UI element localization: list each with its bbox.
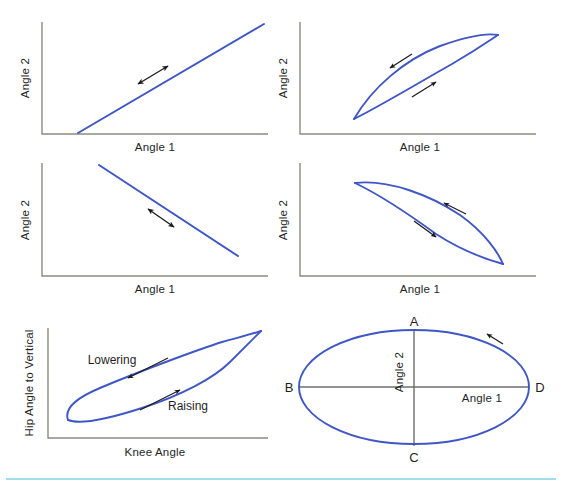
phase-plane-figure: Angle 1 Angle 2 Angle 1 Angle 2 Angle 1 … [0,0,562,494]
panel-6-point-label-b: B [285,380,294,395]
panel-4-xlabel: Angle 1 [400,283,440,295]
panel-5-ylabel: Hip Angle to Vertical [23,329,35,436]
panel-5-annotation-raising: Raising [168,399,208,413]
panel-4-ylabel: Angle 2 [277,200,289,240]
panel-5-annotation-lowering: Lowering [88,353,137,367]
panel-2-ylabel: Angle 2 [277,58,289,98]
panel-1-xlabel: Angle 1 [135,141,175,153]
panel-3-xlabel: Angle 1 [135,283,175,295]
panel-6-point-label-a: A [410,314,419,329]
panel-2-xlabel: Angle 1 [400,141,440,153]
panel-1-ylabel: Angle 2 [19,58,31,98]
panel-5-xlabel: Knee Angle [125,446,186,458]
panel-6-ylabel: Angle 2 [393,352,405,392]
panel-6-xlabel: Angle 1 [462,392,502,404]
panel-6-point-label-d: D [535,380,544,395]
panel-3-ylabel: Angle 2 [19,200,31,240]
panel-6-point-label-c: C [409,450,418,465]
